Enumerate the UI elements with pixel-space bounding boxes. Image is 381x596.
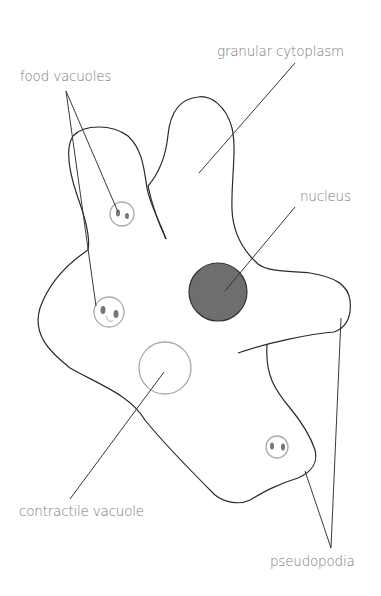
- label-granular-cytoplasm: granular cytoplasm: [217, 43, 344, 59]
- leader-food-vacuole-2: [66, 91, 96, 306]
- leader-nucleus: [225, 207, 295, 291]
- label-pseudopodia: pseudopodia: [270, 553, 355, 569]
- contractile-vacuole: [139, 342, 191, 394]
- label-food-vacuoles: food vacuoles: [20, 68, 111, 84]
- leader-pseudopodia-upper: [331, 318, 341, 548]
- food-vacuole-2: [94, 297, 124, 327]
- food-vacuole-3: [266, 436, 288, 458]
- leader-granular-cytoplasm: [199, 63, 295, 173]
- nucleus-body: [189, 263, 247, 321]
- leader-contractile-vacuole: [70, 372, 164, 499]
- cell-membrane-outline: [38, 127, 316, 503]
- leader-pseudopodia-lower: [305, 471, 331, 548]
- label-nucleus: nucleus: [300, 188, 351, 204]
- cell-membrane-outline-right: [148, 97, 350, 353]
- label-contractile-vacuole: contractile vacuole: [19, 503, 144, 519]
- leader-food-vacuole-1: [66, 91, 118, 212]
- food-vacuole-1: [110, 202, 134, 226]
